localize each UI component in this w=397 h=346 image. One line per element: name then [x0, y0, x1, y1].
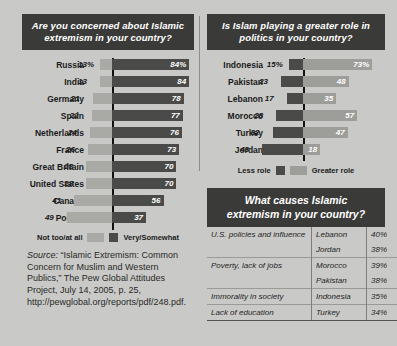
chart-row: Germany2178	[22, 90, 194, 107]
right-legend-label-less: Less role	[238, 166, 271, 175]
chart-bar-right-value: 78	[169, 93, 184, 104]
chart-bar-right: 56	[112, 195, 164, 206]
chart-bar-right: 35	[303, 93, 336, 104]
chart-row-label: India	[22, 77, 84, 87]
left-chart-title-line1: Are you concerned about Islamic	[26, 20, 190, 32]
chart-bar-right-value: 70	[161, 178, 176, 189]
left-chart-title: Are you concerned about Islamic extremis…	[22, 14, 194, 50]
chart-bar-left	[287, 93, 303, 104]
panel-divider	[199, 16, 200, 171]
table-cell-percent: 38%	[367, 273, 397, 289]
chart-bar-right: 18	[303, 144, 320, 155]
chart-row-label: Indonesia	[207, 60, 263, 70]
chart-bar-right-value: 76	[167, 127, 182, 138]
chart-bar-right-value: 56	[149, 195, 164, 206]
table-row: Poverty, lack of jobsMorocco39%	[207, 258, 397, 274]
chart-bar-right-value: 77	[168, 110, 183, 121]
chart-bar-right: 48	[303, 76, 349, 87]
table-cell-country: Lebanon	[312, 227, 367, 242]
chart-bar-left	[289, 59, 303, 70]
table-cell-country: Turkey	[312, 305, 367, 321]
chart-bar-right: 77	[112, 110, 183, 121]
chart-row: Morocco2857	[207, 107, 385, 124]
chart-row: Poland4937	[22, 209, 194, 226]
chart-bar-left	[273, 127, 303, 138]
chart-bar-left	[88, 144, 112, 155]
chart-row-label: Pakistan	[207, 77, 263, 87]
chart-row-bars: 2857	[263, 110, 385, 121]
chart-row-bars: 13%84%	[84, 59, 194, 70]
table-cell-country: Jordan	[312, 242, 367, 258]
chart-row-label: Russia	[22, 60, 84, 70]
table-row: Immorality in societyIndonesia35%	[207, 289, 397, 305]
right-legend-swatch-mid-icon	[290, 166, 307, 175]
causes-table-title-line1: What causes Islamic	[211, 194, 381, 208]
chart-bar-left-value: 21	[71, 93, 80, 104]
right-chart-title-line1: Is Islam playing a greater role in	[211, 20, 381, 32]
chart-bar-right: 37	[112, 212, 146, 223]
chart-row: India1384	[22, 73, 194, 90]
chart-bar-right: 70	[112, 161, 176, 172]
left-legend-swatch-light-icon	[87, 233, 104, 242]
table-cell-cause: U.S. policies and influence	[207, 227, 312, 242]
chart-row-bars: 3247	[263, 127, 385, 138]
chart-row: Indonesia15%73%	[207, 56, 385, 73]
table-row: Lack of educationTurkey34%	[207, 305, 397, 321]
chart-bar-left	[100, 76, 112, 87]
chart-bar-left-value: 15%	[267, 59, 283, 70]
chart-bar-right-value: 84%	[167, 59, 189, 70]
chart-bar-right-value: 84	[174, 76, 189, 87]
chart-bar-right: 78	[112, 93, 184, 104]
chart-bar-right: 57	[303, 110, 357, 121]
chart-bar-right-value: 70	[161, 161, 176, 172]
chart-row-bars: 2476	[84, 127, 194, 138]
chart-bar-right-value: 57	[342, 110, 357, 121]
chart-bar-left	[262, 144, 303, 155]
chart-row-bars: 2870	[84, 178, 194, 189]
chart-bar-left	[86, 161, 112, 172]
right-legend-swatch-dark-icon	[276, 166, 285, 175]
chart-row-label: Lebanon	[207, 94, 263, 104]
causes-table-title-line2: extremism in your country?	[211, 208, 381, 222]
chart-row-bars: 2277	[84, 110, 194, 121]
chart-row: Spain2277	[22, 107, 194, 124]
table-cell-cause: Lack of education	[207, 305, 312, 321]
chart-row: Turkey3247	[207, 124, 385, 141]
chart-bar-right-value: 18	[305, 144, 320, 155]
chart-bar-left-value: 26	[66, 144, 75, 155]
chart-row: Lebanon1735	[207, 90, 385, 107]
table-cell-percent: 35%	[367, 289, 397, 305]
chart-row: Netherlands2476	[22, 124, 194, 141]
infographic-page: Are you concerned about Islamic extremis…	[0, 0, 397, 346]
left-chart-plot: Russia13%84%India1384Germany2178Spain227…	[22, 56, 194, 226]
chart-bar-right-value: 73	[164, 144, 179, 155]
right-chart-plot: Indonesia15%73%Pakistan2348Lebanon1735Mo…	[207, 56, 385, 158]
chart-row-bars: 2348	[263, 76, 385, 87]
chart-bar-left	[92, 110, 112, 121]
chart-bar-right-value: 35	[321, 93, 336, 104]
right-legend-label-greater: Greater role	[312, 166, 355, 175]
table-cell-country: Morocco	[312, 258, 367, 274]
causes-table-title: What causes Islamic extremism in your co…	[207, 188, 385, 227]
chart-row-label: Jordan	[207, 145, 263, 155]
chart-row-bars: 2870	[84, 161, 194, 172]
chart-bar-left-value: 28	[64, 178, 73, 189]
table-cell-percent: 38%	[367, 242, 397, 258]
table-cell-cause	[207, 273, 312, 289]
chart-row: United States2870	[22, 175, 194, 192]
chart-row-bars: 2673	[84, 144, 194, 155]
right-chart-legend: Less role Greater role	[207, 166, 385, 175]
chart-bar-right-value: 48	[334, 76, 349, 87]
chart-row: Canada4156	[22, 192, 194, 209]
chart-row: Jordan4318	[207, 141, 385, 158]
right-chart-title-line2: politics in your country?	[211, 32, 381, 44]
left-chart-legend: Not too/at all Very/Somewhat	[22, 233, 194, 242]
chart-bar-right: 70	[112, 178, 176, 189]
table-cell-percent: 40%	[367, 227, 397, 242]
chart-bar-left-value: 22	[70, 110, 79, 121]
chart-bar-right: 73%	[303, 59, 372, 70]
chart-bar-left-value: 17	[265, 93, 274, 104]
chart-bar-right-value: 73%	[350, 59, 372, 70]
chart-row: Pakistan2348	[207, 73, 385, 90]
chart-row-bars: 4318	[263, 144, 385, 155]
